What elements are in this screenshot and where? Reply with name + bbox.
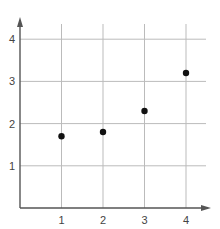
y-tick-label-1: 1 <box>9 160 15 172</box>
x-tick-label-1: 1 <box>58 214 64 226</box>
data-point-3 <box>141 108 147 114</box>
scatter-chart: 12341234 <box>0 0 220 229</box>
y-tick-label-2: 2 <box>9 118 15 130</box>
data-point-1 <box>58 133 64 139</box>
data-points <box>58 70 189 140</box>
x-tick-label-2: 2 <box>100 214 106 226</box>
y-tick-label-3: 3 <box>9 75 15 87</box>
x-axis-arrow-icon <box>201 205 211 211</box>
tick-labels: 12341234 <box>9 33 189 226</box>
axes <box>17 17 211 211</box>
data-point-2 <box>100 129 106 135</box>
y-tick-label-4: 4 <box>9 33 15 45</box>
data-point-4 <box>183 70 189 76</box>
x-tick-label-4: 4 <box>183 214 189 226</box>
y-axis-arrow-icon <box>17 17 23 27</box>
x-tick-label-3: 3 <box>141 214 147 226</box>
grid-lines <box>20 24 206 208</box>
